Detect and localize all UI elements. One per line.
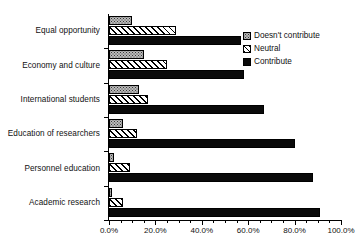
bar-group bbox=[109, 119, 341, 151]
x-axis-minor-tick bbox=[283, 220, 284, 223]
x-axis-major-tick bbox=[109, 220, 110, 225]
bar-doesnt bbox=[109, 16, 132, 25]
bar-contribute bbox=[109, 105, 264, 114]
bar-contribute bbox=[109, 70, 244, 79]
y-axis-tick bbox=[104, 186, 109, 187]
x-axis-tick-labels: 0.0%20.0%40.0%60.0%80.0%100.0% bbox=[0, 226, 363, 238]
x-axis-major-tick bbox=[155, 220, 156, 225]
bar-neutral bbox=[109, 95, 148, 104]
legend-item: Neutral bbox=[243, 43, 361, 55]
y-axis-tick bbox=[104, 83, 109, 84]
legend-swatch-doesnt bbox=[243, 32, 251, 40]
x-axis-minor-tick bbox=[190, 220, 191, 223]
legend: Doesn't contributeNeutralContribute bbox=[243, 30, 361, 69]
bar-neutral bbox=[109, 26, 176, 35]
x-axis-minor-tick bbox=[329, 220, 330, 223]
category-label: Personnel education bbox=[0, 164, 100, 173]
legend-label: Doesn't contribute bbox=[254, 30, 320, 42]
bar-neutral bbox=[109, 198, 123, 207]
bar-contribute bbox=[109, 36, 241, 45]
category-axis-labels: Equal opportunityEconomy and cultureInte… bbox=[0, 14, 104, 220]
category-label: International students bbox=[0, 95, 100, 104]
bar-doesnt bbox=[109, 50, 144, 59]
bar-doesnt bbox=[109, 153, 114, 162]
x-axis-minor-tick bbox=[121, 220, 122, 223]
legend-item: Doesn't contribute bbox=[243, 30, 361, 42]
horizontal-bar-chart: Equal opportunityEconomy and cultureInte… bbox=[0, 0, 363, 252]
x-axis-tick-label: 80.0% bbox=[283, 226, 306, 236]
legend-label: Neutral bbox=[254, 43, 280, 55]
y-axis-tick bbox=[104, 117, 109, 118]
x-axis-major-tick bbox=[202, 220, 203, 225]
x-axis-minor-tick bbox=[132, 220, 133, 223]
x-axis-tick-label: 20.0% bbox=[144, 226, 167, 236]
x-axis-minor-tick bbox=[225, 220, 226, 223]
x-axis-minor-tick bbox=[167, 220, 168, 223]
legend-swatch-contribute bbox=[243, 58, 251, 66]
x-axis-minor-tick bbox=[144, 220, 145, 223]
x-axis-tick-label: 0.0% bbox=[100, 226, 118, 236]
legend-swatch-neutral bbox=[243, 45, 251, 53]
x-axis-minor-tick bbox=[260, 220, 261, 223]
bar-neutral bbox=[109, 163, 130, 172]
x-axis-tick-label: 60.0% bbox=[237, 226, 260, 236]
legend-label: Contribute bbox=[254, 56, 292, 68]
x-axis-minor-tick bbox=[179, 220, 180, 223]
category-label: Equal opportunity bbox=[0, 26, 100, 35]
x-axis-minor-tick bbox=[306, 220, 307, 223]
bar-contribute bbox=[109, 173, 313, 182]
y-axis-tick bbox=[104, 151, 109, 152]
x-axis-tick-label: 100.0% bbox=[327, 226, 354, 236]
x-axis-major-tick bbox=[341, 220, 342, 225]
x-axis-minor-tick bbox=[237, 220, 238, 223]
category-label: Academic research bbox=[0, 198, 100, 207]
bar-neutral bbox=[109, 60, 167, 69]
category-label: Education of researchers bbox=[0, 129, 100, 138]
bar-doesnt bbox=[109, 119, 123, 128]
x-axis-minor-tick bbox=[271, 220, 272, 223]
bar-group bbox=[109, 85, 341, 117]
x-axis-tick-label: 40.0% bbox=[190, 226, 213, 236]
bar-contribute bbox=[109, 139, 295, 148]
category-label: Economy and culture bbox=[0, 61, 100, 70]
x-axis-minor-tick bbox=[318, 220, 319, 223]
bar-contribute bbox=[109, 208, 320, 217]
y-axis-tick bbox=[104, 48, 109, 49]
bar-doesnt bbox=[109, 85, 139, 94]
bar-group bbox=[109, 188, 341, 220]
bar-group bbox=[109, 153, 341, 185]
x-axis-major-tick bbox=[295, 220, 296, 225]
bar-doesnt bbox=[109, 188, 112, 197]
x-axis-minor-tick bbox=[213, 220, 214, 223]
x-axis-major-tick bbox=[248, 220, 249, 225]
legend-item: Contribute bbox=[243, 56, 361, 68]
bar-neutral bbox=[109, 129, 137, 138]
